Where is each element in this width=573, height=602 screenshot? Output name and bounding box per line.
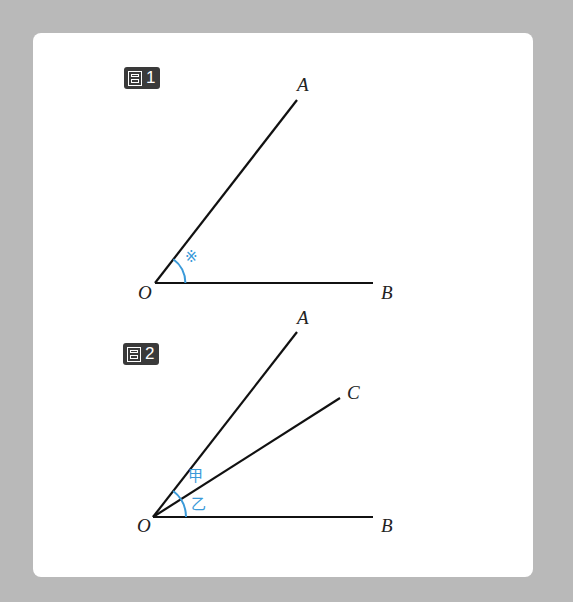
figure-number: 1	[146, 68, 155, 88]
angle-mark-fig1: ※	[185, 250, 198, 265]
angle-mark-upper-fig2: 甲	[188, 469, 203, 484]
label-O-fig1: O	[138, 283, 152, 302]
label-C-fig2: C	[347, 383, 360, 402]
figure-badge-1: 1	[124, 67, 160, 89]
angle-arc-fig1	[173, 259, 185, 283]
figure-icon	[127, 347, 141, 362]
ray-OA-fig1	[155, 100, 297, 283]
label-B-fig1: B	[381, 283, 393, 302]
ray-OA-fig2	[153, 332, 297, 517]
label-B-fig2: B	[381, 516, 393, 535]
label-A-fig1: A	[297, 75, 309, 94]
figure-badge-2: 2	[123, 343, 159, 365]
figure-icon	[128, 71, 142, 86]
angle-mark-lower-fig2: 乙	[191, 497, 206, 512]
label-O-fig2: O	[137, 516, 151, 535]
figure-number: 2	[145, 344, 154, 364]
angle-diagram-lines	[0, 0, 573, 602]
label-A-fig2: A	[297, 308, 309, 327]
